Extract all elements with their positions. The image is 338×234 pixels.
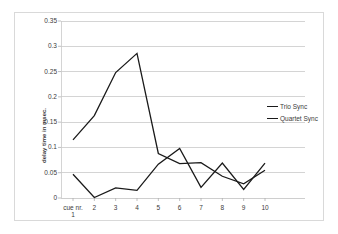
y-tick-label: 0.25: [29, 68, 57, 75]
x-tick-label-value: 1: [58, 211, 88, 218]
chart-figure: delay time in msec. 00.050.10.150.20.250…: [0, 0, 338, 234]
chart-plot-frame: delay time in msec. 00.050.10.150.20.250…: [14, 12, 324, 221]
legend-label: Trio Sync: [280, 103, 307, 110]
y-axis-title: delay time in msec.: [41, 108, 47, 163]
y-tick-label: 0.3: [29, 42, 57, 49]
y-tick-label: 0.1: [29, 143, 57, 150]
y-tick-label: 0: [29, 194, 57, 201]
x-tick-label: 10: [250, 204, 280, 211]
gridlines-group: [58, 21, 305, 201]
series-lines-group: [73, 53, 265, 197]
y-tick-label: 0.15: [29, 118, 57, 125]
legend-item-2: Quartet Sync: [267, 115, 318, 122]
legend-line-swatch: [267, 106, 278, 107]
y-tick-label: 0.05: [29, 169, 57, 176]
legend-item-1: Trio Sync: [267, 103, 307, 110]
y-tick-label: 0.2: [29, 93, 57, 100]
y-tick-label: 0.35: [29, 17, 57, 24]
series-line-1: [73, 53, 265, 183]
legend-line-swatch: [267, 118, 278, 119]
legend-label: Quartet Sync: [280, 115, 318, 122]
